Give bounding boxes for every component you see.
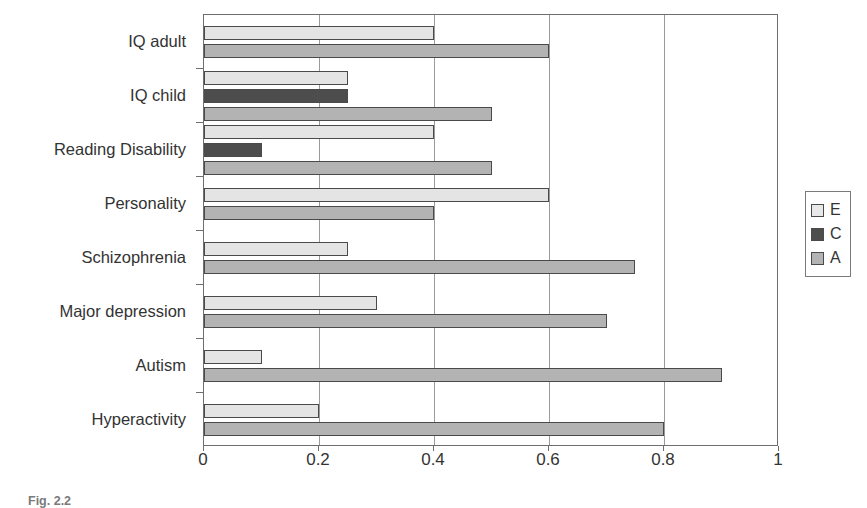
x-axis-label: 0.2 — [306, 450, 330, 470]
x-axis-label: 1 — [773, 450, 782, 470]
x-axis-label: 0.8 — [651, 450, 675, 470]
bar-e — [204, 125, 434, 139]
bar-a — [204, 206, 434, 220]
bar-row — [204, 143, 777, 157]
y-axis-label: Major depression — [59, 302, 186, 321]
bar-row — [204, 206, 777, 220]
bar-e — [204, 296, 377, 310]
legend: ECA — [805, 191, 851, 277]
bar-group — [204, 69, 777, 123]
y-axis-tick — [196, 122, 203, 123]
bar-group — [204, 15, 777, 69]
bar-row — [204, 107, 777, 121]
bar-row — [204, 26, 777, 40]
figure-caption: Fig. 2.2 — [28, 494, 848, 508]
y-axis-label: Autism — [136, 356, 186, 375]
bar-group — [204, 339, 777, 393]
legend-label: E — [830, 202, 841, 218]
bar-row — [204, 368, 777, 382]
bar-row — [204, 260, 777, 274]
y-axis-label: Reading Disability — [54, 140, 186, 159]
bar-group — [204, 177, 777, 231]
bar-row — [204, 188, 777, 202]
bar-group — [204, 231, 777, 285]
bar-e — [204, 26, 434, 40]
bar-a — [204, 368, 722, 382]
legend-swatch-e — [811, 204, 824, 217]
bar-e — [204, 188, 549, 202]
bar-a — [204, 314, 607, 328]
legend-item-c[interactable]: C — [811, 222, 845, 246]
y-axis-label: IQ child — [130, 86, 186, 105]
legend-swatch-c — [811, 228, 824, 241]
x-axis-label: 0.4 — [421, 450, 445, 470]
bar-a — [204, 107, 492, 121]
y-axis-tick — [196, 338, 203, 339]
y-axis-label: IQ adult — [128, 32, 186, 51]
bar-row — [204, 44, 777, 58]
y-axis-label: Schizophrenia — [81, 248, 186, 267]
y-axis-label: Personality — [104, 194, 186, 213]
bar-row — [204, 242, 777, 256]
bar-row — [204, 350, 777, 364]
legend-item-a[interactable]: A — [811, 246, 845, 270]
bar-e — [204, 71, 348, 85]
y-axis-labels: IQ adultIQ childReading DisabilityPerson… — [0, 14, 196, 446]
bar-row — [204, 161, 777, 175]
y-axis-tick — [196, 176, 203, 177]
bar-group — [204, 393, 777, 447]
bar-a — [204, 422, 664, 436]
bar-a — [204, 260, 635, 274]
bar-row — [204, 404, 777, 418]
bar-row — [204, 314, 777, 328]
y-axis-tick — [196, 230, 203, 231]
legend-item-e[interactable]: E — [811, 198, 845, 222]
bar-c — [204, 89, 348, 103]
plot-area — [203, 14, 778, 446]
bar-group — [204, 285, 777, 339]
caption-label: Fig. 2.2 — [28, 494, 71, 508]
bar-row — [204, 296, 777, 310]
y-axis-tick — [196, 392, 203, 393]
bar-row — [204, 89, 777, 103]
bar-a — [204, 44, 549, 58]
x-axis-label: 0.6 — [536, 450, 560, 470]
bar-group — [204, 123, 777, 177]
bar-groups — [204, 15, 777, 445]
bar-row — [204, 422, 777, 436]
bar-row — [204, 71, 777, 85]
bar-e — [204, 404, 319, 418]
bar-e — [204, 242, 348, 256]
x-axis-label: 0 — [198, 450, 207, 470]
legend-label: C — [830, 226, 842, 242]
y-axis-label: Hyperactivity — [92, 410, 186, 429]
x-axis-labels: 00.20.40.60.81 — [203, 450, 778, 476]
legend-label: A — [830, 250, 841, 266]
bar-c — [204, 143, 262, 157]
bar-a — [204, 161, 492, 175]
bar-row — [204, 125, 777, 139]
y-axis-tick — [196, 68, 203, 69]
y-axis-tick — [196, 284, 203, 285]
legend-swatch-a — [811, 252, 824, 265]
bar-e — [204, 350, 262, 364]
